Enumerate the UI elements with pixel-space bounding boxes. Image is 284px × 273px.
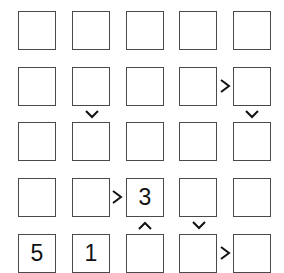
cell-r2-c3[interactable]: [126, 67, 164, 106]
cell-r3-c1[interactable]: [18, 122, 56, 161]
cell-r1-c4[interactable]: [179, 11, 217, 50]
chevron-down-icon: [244, 106, 260, 122]
cell-r5-c5[interactable]: [233, 234, 271, 273]
cell-r4-c5[interactable]: [233, 178, 271, 217]
chevron-down-icon: [191, 217, 207, 233]
cell-r5-c3[interactable]: [126, 234, 164, 273]
cell-r2-c5[interactable]: [233, 67, 271, 106]
cell-r1-c1[interactable]: [18, 11, 56, 50]
cell-r1-c3[interactable]: [126, 11, 164, 50]
cell-r3-c4[interactable]: [179, 122, 217, 161]
chevron-down-icon: [84, 106, 100, 122]
cell-r3-c5[interactable]: [233, 122, 271, 161]
cell-r4-c1[interactable]: [18, 178, 56, 217]
greater-than-icon: [217, 245, 233, 261]
cell-r1-c2[interactable]: [72, 11, 110, 50]
greater-than-icon: [217, 78, 233, 94]
cell-r2-c1[interactable]: [18, 67, 56, 106]
cell-r4-c2[interactable]: [72, 178, 110, 217]
cell-r3-c3[interactable]: [126, 122, 164, 161]
cell-r4-c3[interactable]: 3: [126, 178, 164, 217]
chevron-up-icon: [137, 218, 153, 234]
cell-r2-c4[interactable]: [179, 67, 217, 106]
cell-r5-c2[interactable]: 1: [72, 234, 110, 273]
cell-r3-c2[interactable]: [72, 122, 110, 161]
cell-r5-c1[interactable]: 5: [18, 234, 56, 273]
greater-than-icon: [109, 189, 125, 205]
cell-r4-c4[interactable]: [179, 178, 217, 217]
cell-r1-c5[interactable]: [233, 11, 271, 50]
cell-r2-c2[interactable]: [72, 67, 110, 106]
cell-r5-c4[interactable]: [179, 234, 217, 273]
